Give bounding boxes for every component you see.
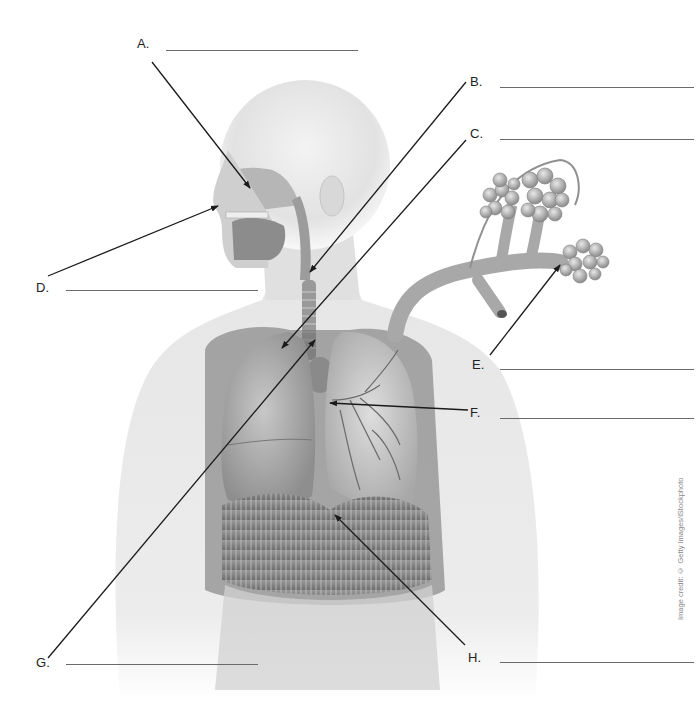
answer-blank-e[interactable]: [500, 369, 694, 370]
label-b: B.: [470, 74, 483, 89]
answer-blank-g[interactable]: [66, 664, 258, 665]
label-c: C.: [470, 126, 483, 141]
ear: [320, 176, 344, 216]
leader-line-d: [48, 206, 218, 276]
label-e: E.: [472, 357, 485, 372]
tongue: [232, 218, 285, 260]
answer-blank-h[interactable]: [500, 662, 694, 663]
answer-blank-a[interactable]: [166, 50, 358, 51]
anatomy-figure: [0, 0, 698, 720]
label-h: H.: [468, 650, 481, 665]
label-d: D.: [36, 280, 49, 295]
label-a: A.: [137, 36, 150, 51]
label-g: G.: [36, 655, 50, 670]
diagram-stage: A. B. C. D. E. F. G. H. Image credit: © …: [0, 0, 698, 720]
answer-blank-b[interactable]: [500, 87, 694, 88]
answer-blank-f[interactable]: [500, 418, 694, 419]
label-f: F.: [470, 405, 481, 420]
teeth: [226, 212, 268, 218]
answer-blank-d[interactable]: [66, 290, 258, 291]
abdomen: [215, 585, 440, 690]
answer-blank-c[interactable]: [500, 139, 694, 140]
image-credit: Image credit: © Getty Images/iStockphoto: [676, 520, 690, 620]
